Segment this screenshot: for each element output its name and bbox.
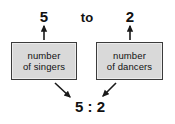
label-box-singers: number of singers <box>11 42 77 80</box>
ratio-connector-word: to <box>74 11 100 24</box>
arrow-down-left-to-result-icon <box>103 83 116 96</box>
numerator-value: 5 <box>33 9 55 24</box>
label-box-singers-line1: number <box>28 50 61 62</box>
label-box-dancers-line1: number <box>113 50 146 62</box>
result-ratio: 5 : 2 <box>55 99 125 114</box>
label-box-singers-line2: of singers <box>23 61 65 73</box>
label-box-dancers: number of dancers <box>96 42 163 80</box>
arrow-down-right-to-result-icon <box>55 83 70 97</box>
denominator-value: 2 <box>119 9 141 24</box>
ratio-diagram: 5 to 2 number of singers number of dance… <box>0 0 175 124</box>
label-box-dancers-line2: of dancers <box>107 61 152 73</box>
